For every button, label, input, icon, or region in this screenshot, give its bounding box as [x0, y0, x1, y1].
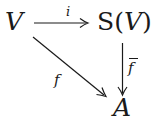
arrow-label-fbar-glyph: f [128, 58, 134, 76]
overline-bar [129, 58, 138, 59]
node-sv-var: V [124, 7, 142, 36]
node-symmetric-algebra: S(V) [97, 9, 152, 34]
node-a: A [113, 95, 131, 120]
arrow-label-i: i [66, 5, 70, 18]
arrow-label-fbar: f [128, 58, 134, 76]
node-v: V [5, 9, 23, 34]
node-sv-prefix: S( [97, 7, 124, 36]
node-sv-suffix: ) [142, 7, 152, 36]
arrow-fbar [118, 43, 127, 95]
arrow-label-f: f [54, 73, 60, 88]
arrow-f [33, 37, 106, 97]
arrow-i [34, 19, 88, 28]
